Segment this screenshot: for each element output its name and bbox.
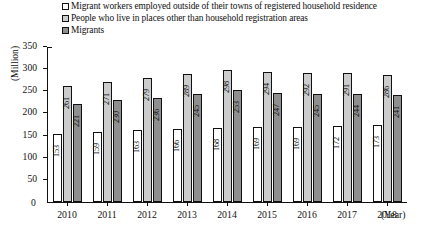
- bar-series1: 173: [373, 125, 382, 202]
- x-tick-label: 2013: [167, 209, 207, 220]
- bar-value-label: 294: [263, 83, 271, 95]
- bar-value-label: 279: [143, 89, 151, 101]
- bar-group: 166289245: [167, 47, 207, 202]
- legend-item-series2: People who live in places other than hou…: [62, 13, 430, 25]
- bar-value-label: 245: [313, 105, 321, 117]
- bar-group: 168298253: [207, 47, 247, 202]
- bar-value-label: 230: [113, 111, 121, 123]
- bar-group: 159271230: [87, 47, 127, 202]
- x-axis-labels: 201020112012201320142015201620172018: [47, 209, 407, 220]
- bar-value-label: 289: [183, 85, 191, 97]
- x-axis-tick: [267, 202, 268, 206]
- x-axis-tick: [227, 202, 228, 206]
- y-tick-label: 100: [23, 151, 37, 162]
- bar-value-label: 241: [393, 106, 401, 118]
- cropped-caption-strip: [32, 226, 332, 233]
- x-axis-tick: [347, 202, 348, 206]
- bar-series1: 172: [333, 126, 342, 202]
- x-tick-label: 2017: [327, 209, 367, 220]
- x-tick-label: 2010: [47, 209, 87, 220]
- bar-series3: 221: [73, 104, 82, 202]
- plot-area: 35030025020015010050 1532612211592712301…: [47, 47, 407, 203]
- y-tick-label: 50: [27, 173, 37, 184]
- bar-value-label: 163: [133, 141, 141, 153]
- bar-group: 173286241: [367, 47, 407, 202]
- bar-series1: 166: [173, 129, 182, 203]
- bar-value-label: 159: [93, 143, 101, 155]
- bar-value-label: 261: [63, 97, 71, 109]
- bar-series3: 245: [313, 94, 322, 203]
- bar-series2: 289: [183, 74, 192, 202]
- bar-value-label: 291: [343, 84, 351, 96]
- bar-series2: 291: [343, 73, 352, 202]
- bar-series2: 286: [383, 75, 392, 202]
- bar-value-label: 244: [353, 105, 361, 117]
- bar-series2: 298: [223, 70, 232, 202]
- bar-value-label: 169: [293, 138, 301, 150]
- y-tick-label: 250: [23, 84, 37, 95]
- chart-legend: Migrant workers employed outside of thei…: [62, 1, 430, 37]
- legend-item-series3: Migrants: [62, 25, 430, 37]
- bar-value-label: 172: [333, 137, 341, 149]
- y-tick-label: 200: [23, 106, 37, 117]
- bar-series3: 253: [233, 90, 242, 202]
- legend-item-series1: Migrant workers employed outside of thei…: [62, 1, 430, 13]
- bar-value-label: 173: [373, 136, 381, 148]
- bar-group: 172291244: [327, 47, 367, 202]
- bar-value-label: 298: [223, 81, 231, 93]
- bar-value-label: 153: [53, 145, 61, 157]
- bar-series3: 241: [393, 95, 402, 202]
- y-axis-title: (Million): [9, 34, 20, 94]
- x-axis-unit-label: (Year): [381, 209, 406, 220]
- y-tick-label: 300: [23, 62, 37, 73]
- bar-chart: Migrant workers employed outside of thei…: [0, 0, 432, 233]
- bar-value-label: 236: [153, 109, 161, 121]
- x-axis-tick: [307, 202, 308, 206]
- x-axis-tick: [147, 202, 148, 206]
- bar-series3: 230: [113, 100, 122, 202]
- bar-series1: 169: [293, 127, 302, 202]
- x-axis-tick: [387, 202, 388, 206]
- bar-series2: 279: [143, 78, 152, 202]
- bar-value-label: 292: [303, 84, 311, 96]
- legend-label-series1: Migrant workers employed outside of thei…: [71, 1, 377, 12]
- bar-series1: 169: [253, 127, 262, 202]
- bar-series3: 245: [193, 94, 202, 203]
- white-square-icon: [62, 3, 69, 10]
- bar-series2: 292: [303, 73, 312, 202]
- bar-series1: 159: [93, 132, 102, 202]
- dark-gray-square-icon: [62, 27, 69, 34]
- bar-series3: 247: [273, 93, 282, 202]
- x-tick-label: 2011: [87, 209, 127, 220]
- bar-series3: 236: [153, 98, 162, 203]
- bar-value-label: 271: [103, 93, 111, 105]
- bar-series2: 261: [63, 86, 72, 202]
- bar-series2: 294: [263, 72, 272, 202]
- bar-value-label: 168: [213, 139, 221, 151]
- x-axis-tick: [107, 202, 108, 206]
- x-axis-tick: [187, 202, 188, 206]
- x-tick-label: 2014: [207, 209, 247, 220]
- light-gray-square-icon: [62, 15, 69, 22]
- bar-group: 169292245: [287, 47, 327, 202]
- bar-series2: 271: [103, 82, 112, 202]
- bar-group: 153261221: [47, 47, 87, 202]
- x-tick-label: 2012: [127, 209, 167, 220]
- x-tick-label: 2016: [287, 209, 327, 220]
- y-tick-label: 150: [23, 129, 37, 140]
- y-tick-label-zero: 0: [31, 197, 36, 208]
- bar-value-label: 166: [173, 140, 181, 152]
- bar-group: 169294247: [247, 47, 287, 202]
- x-tick-label: 2015: [247, 209, 287, 220]
- bar-value-label: 245: [193, 105, 201, 117]
- bar-value-label: 221: [73, 115, 81, 127]
- bar-series3: 244: [353, 94, 362, 202]
- legend-label-series3: Migrants: [71, 25, 104, 36]
- bar-group: 163279236: [127, 47, 167, 202]
- bar-value-label: 169: [253, 138, 261, 150]
- bar-value-label: 247: [273, 104, 281, 116]
- bar-value-label: 253: [233, 101, 241, 113]
- bar-series1: 153: [53, 134, 62, 202]
- legend-label-series2: People who live in places other than hou…: [71, 13, 308, 24]
- bar-series1: 168: [213, 128, 222, 202]
